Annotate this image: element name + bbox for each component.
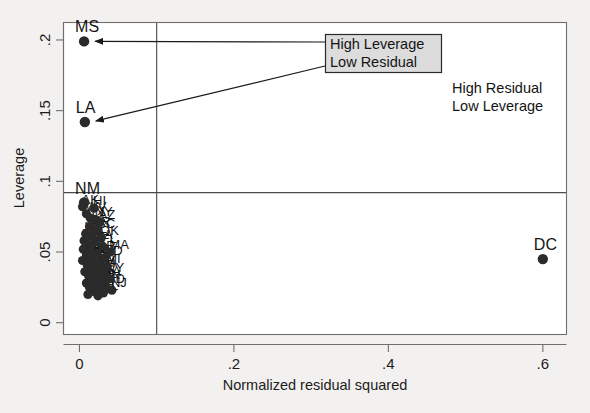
cluster-data-point bbox=[93, 291, 102, 300]
annotation-plain-line1: High Residual bbox=[452, 80, 542, 96]
cluster-data-point bbox=[83, 290, 92, 299]
x-tick-label: .2 bbox=[228, 355, 241, 372]
annotation-box-line2: Low Residual bbox=[330, 54, 417, 70]
y-tick-label: 0 bbox=[36, 319, 53, 327]
chart-svg: 0.05.1.15.2 Leverage 0.2.4.6 Normalized … bbox=[0, 0, 590, 413]
point-label-dc: DC bbox=[534, 236, 557, 253]
data-point-nm bbox=[79, 197, 89, 207]
cluster-data-point bbox=[90, 204, 99, 213]
x-tick-label: 0 bbox=[75, 355, 83, 372]
point-label-nm: NM bbox=[75, 180, 100, 197]
y-axis-title: Leverage bbox=[11, 148, 27, 208]
data-point-la bbox=[80, 117, 90, 127]
annotation-box-line1: High Leverage bbox=[330, 36, 424, 52]
leverage-residual-plot: 0.05.1.15.2 Leverage 0.2.4.6 Normalized … bbox=[0, 0, 590, 413]
y-tick-label: .2 bbox=[36, 34, 53, 47]
arrow-to-ms-point bbox=[95, 41, 325, 42]
y-tick-label: .05 bbox=[36, 242, 53, 263]
annotation-plain-line2: Low Leverage bbox=[452, 98, 543, 114]
data-point-dc bbox=[538, 254, 548, 264]
high-leverage-annotation: High Leverage Low Residual bbox=[326, 35, 442, 73]
point-label-ms: MS bbox=[75, 18, 99, 35]
x-tick-label: .4 bbox=[382, 355, 395, 372]
y-tick-label: .1 bbox=[36, 175, 53, 188]
point-label-la: LA bbox=[76, 99, 96, 116]
data-point-ms bbox=[79, 36, 89, 46]
x-axis-title: Normalized residual squared bbox=[223, 377, 408, 393]
x-tick-label: .6 bbox=[537, 355, 550, 372]
cluster-data-point bbox=[107, 286, 116, 295]
cluster-data-point bbox=[95, 218, 104, 227]
y-tick-label: .15 bbox=[36, 100, 53, 121]
plot-area bbox=[64, 23, 567, 335]
